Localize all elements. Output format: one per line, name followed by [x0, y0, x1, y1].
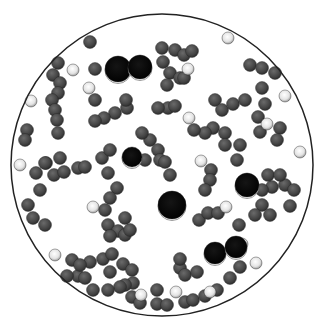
gray-particle — [104, 266, 117, 279]
gray-particle — [269, 67, 282, 80]
gray-particle — [224, 272, 237, 285]
gray-particle — [52, 127, 65, 140]
black-particle — [204, 242, 226, 264]
gray-particle — [219, 139, 232, 152]
particle-scene — [0, 0, 315, 325]
gray-particle — [157, 56, 170, 69]
black-particle — [128, 55, 152, 79]
gray-particle — [104, 192, 117, 205]
gray-particle — [84, 36, 97, 49]
gray-particle — [79, 272, 92, 285]
gray-particle — [188, 124, 201, 137]
gray-particle — [262, 169, 275, 182]
gray-particle — [39, 157, 52, 170]
black-particle — [235, 173, 259, 197]
gray-particle — [187, 294, 200, 307]
gray-particle — [39, 219, 52, 232]
gray-particle — [234, 139, 247, 152]
gray-particle — [104, 144, 117, 157]
gray-particle — [89, 94, 102, 107]
gray-particle — [234, 261, 247, 274]
gray-particle — [156, 42, 169, 55]
gray-particle — [256, 82, 269, 95]
white-particle — [182, 63, 194, 75]
gray-particle — [104, 230, 117, 243]
gray-particle — [231, 154, 244, 167]
white-particle — [222, 32, 234, 44]
gray-particle — [151, 284, 164, 297]
gray-particle — [34, 184, 47, 197]
gray-particle — [87, 284, 100, 297]
white-particle — [170, 286, 182, 298]
gray-particle — [22, 199, 35, 212]
gray-particle — [19, 134, 32, 147]
gray-particle — [27, 212, 40, 225]
gray-particle — [161, 79, 174, 92]
white-particle — [135, 289, 147, 301]
gray-particle — [264, 209, 277, 222]
white-particle — [294, 146, 306, 158]
gray-particle — [79, 161, 92, 174]
gray-particle — [120, 94, 133, 107]
white-particle — [49, 249, 61, 261]
gray-particle — [233, 219, 246, 232]
gray-particle — [239, 94, 252, 107]
gray-particle — [52, 57, 65, 70]
gray-particle — [102, 284, 115, 297]
gray-particle — [199, 184, 212, 197]
white-particle — [67, 64, 79, 76]
gray-particle — [58, 166, 71, 179]
gray-particles — [19, 36, 301, 312]
white-particle — [195, 155, 207, 167]
white-particle — [87, 201, 99, 213]
white-particle — [204, 286, 216, 298]
white-particle — [250, 257, 262, 269]
gray-particle — [89, 115, 102, 128]
gray-particle — [249, 209, 262, 222]
white-particle — [14, 159, 26, 171]
gray-particle — [174, 253, 187, 266]
gray-particle — [30, 167, 43, 180]
gray-particle — [126, 264, 139, 277]
gray-particle — [271, 134, 284, 147]
black-particle — [158, 191, 186, 219]
gray-particle — [169, 100, 182, 113]
white-particle — [261, 118, 273, 130]
gray-particle — [159, 156, 172, 169]
black-particle — [105, 56, 131, 82]
gray-particle — [274, 122, 287, 135]
white-particle — [220, 201, 232, 213]
gray-particle — [219, 127, 232, 140]
gray-particle — [51, 114, 64, 127]
gray-particle — [136, 127, 149, 140]
gray-particle — [244, 59, 257, 72]
gray-particle — [74, 259, 87, 272]
gray-particle — [191, 266, 204, 279]
white-particle — [183, 112, 195, 124]
gray-particle — [114, 281, 127, 294]
gray-particle — [152, 102, 165, 115]
gray-particle — [186, 45, 199, 58]
white-particle — [83, 82, 95, 94]
gray-particle — [284, 200, 297, 213]
gray-particle — [274, 169, 287, 182]
gray-particle — [106, 248, 119, 261]
black-particle — [225, 236, 247, 258]
gray-particle — [61, 270, 74, 283]
gray-particle — [102, 167, 115, 180]
gray-particle — [288, 184, 301, 197]
gray-particle — [119, 212, 132, 225]
gray-particle — [161, 299, 174, 312]
gray-particle — [227, 98, 240, 111]
gray-particle — [89, 63, 102, 76]
gray-particle — [164, 169, 177, 182]
gray-particle — [124, 224, 137, 237]
white-particle — [279, 90, 291, 102]
black-particle — [122, 147, 142, 167]
gray-particle — [256, 62, 269, 75]
gray-particle — [259, 98, 272, 111]
gray-particle — [54, 152, 67, 165]
gray-particle — [179, 269, 192, 282]
gray-particle — [99, 204, 112, 217]
